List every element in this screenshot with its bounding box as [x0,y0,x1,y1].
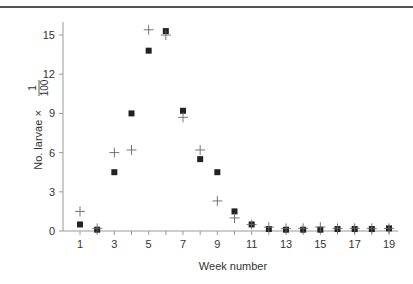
plus-marker [350,223,360,233]
y-axis-title-frac-num: 1 [27,85,38,91]
plus-marker [92,223,102,233]
square-marker [214,169,220,175]
x-tick-label: 11 [246,238,257,250]
x-tick-label: 17 [349,238,361,250]
square-marker [129,110,135,116]
plus-marker [161,30,171,40]
square-marker [146,48,152,54]
x-axis-title: Week number [199,260,268,272]
y-axis-title: No. larvae × 1 100 [27,79,50,170]
plus-marker [75,206,85,216]
data-points [75,25,394,234]
plus-marker [195,145,205,155]
x-axis-ticks: 135791113151719 [77,231,395,250]
y-axis-title-main: No. larvae × [32,110,44,170]
x-tick-label: 7 [180,238,186,250]
x-tick-label: 5 [146,238,152,250]
plus-marker [178,112,188,122]
plus-marker [212,196,222,206]
x-tick-label: 3 [111,238,117,250]
y-tick-label: 6 [49,147,55,159]
y-tick-label: 9 [49,107,55,119]
plus-marker [127,145,137,155]
plus-marker [298,223,308,233]
y-axis-ticks: 03691215 [43,29,63,237]
x-tick-label: 13 [280,238,292,250]
plus-marker [333,223,343,233]
plus-marker [109,148,119,158]
plus-marker [247,219,257,229]
y-tick-label: 15 [43,29,55,41]
y-tick-label: 3 [49,186,55,198]
scatter-chart: 03691215 135791113151719 Week number No.… [0,0,413,284]
axes [63,22,398,231]
plus-marker [281,223,291,233]
x-tick-label: 15 [314,238,326,250]
x-tick-label: 19 [383,238,395,250]
y-axis-title-frac-den: 100 [39,79,50,96]
square-marker [197,156,203,162]
plus-marker [144,25,154,35]
x-tick-label: 9 [214,238,220,250]
plus-marker [367,223,377,233]
plus-marker [230,213,240,223]
series-crosses [75,25,394,234]
x-tick-label: 1 [77,238,83,250]
plus-marker [384,223,394,233]
y-tick-label: 12 [43,68,55,80]
square-marker [77,221,83,227]
y-tick-label: 0 [49,225,55,237]
square-marker [111,169,117,175]
series-squares [77,28,392,233]
